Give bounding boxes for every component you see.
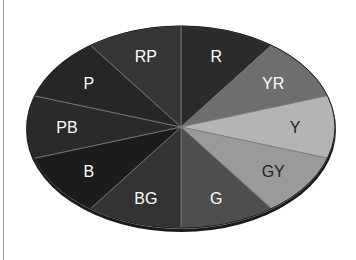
slice-label-bg: BG [134,190,157,207]
slice-label-r: R [210,48,222,65]
slice-label-y: Y [290,119,301,136]
slice-label-p: P [83,75,94,92]
slice-label-rp: RP [135,48,157,65]
slice-label-gy: GY [262,163,285,180]
slice-label-pb: PB [56,119,77,136]
slice-label-yr: YR [262,75,284,92]
slice-label-b: B [83,163,94,180]
slice-label-g: G [210,190,222,207]
pie-chart: RYRYGYGBGBPBPRP [0,0,356,260]
